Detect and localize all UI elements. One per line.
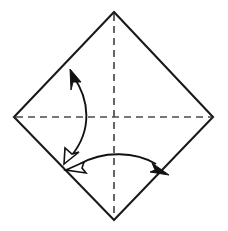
- origami-figure-canvas: [0, 0, 228, 231]
- origami-diagram: [0, 0, 228, 231]
